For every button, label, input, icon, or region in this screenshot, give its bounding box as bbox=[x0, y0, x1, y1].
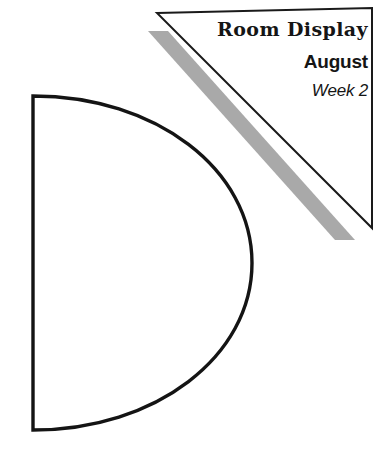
month-label: August bbox=[304, 52, 368, 71]
banner-triangle bbox=[157, 8, 372, 228]
half-disc-outline bbox=[33, 96, 252, 430]
page-title: Room Display bbox=[217, 20, 368, 39]
room-display-page: Room Display August Week 2 bbox=[0, 0, 387, 458]
week-label: Week 2 bbox=[312, 82, 368, 99]
